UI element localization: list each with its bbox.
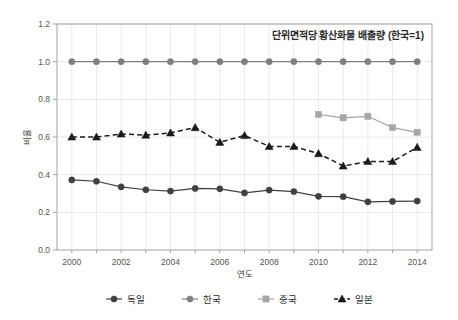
- data-point: [118, 184, 124, 190]
- data-point: [69, 59, 75, 65]
- y-tick-label: 1.2: [38, 19, 50, 29]
- data-point: [93, 178, 99, 184]
- data-point: [167, 188, 173, 194]
- legend-item-한국[interactable]: 한국: [182, 294, 221, 305]
- legend-label: 독일: [127, 294, 145, 305]
- data-point: [93, 59, 99, 65]
- data-point: [340, 194, 346, 200]
- x-axis-title: 연도: [237, 269, 253, 279]
- sulfur-oxide-emission-line-chart: 0.00.20.40.60.81.01.2 200020022004200620…: [0, 0, 458, 320]
- chart-container: 0.00.20.40.60.81.01.2 200020022004200620…: [0, 0, 458, 320]
- data-point: [217, 186, 223, 192]
- data-point: [266, 187, 272, 193]
- data-point: [365, 59, 371, 65]
- y-tick-label: 0.6: [38, 132, 50, 142]
- x-tick-label: 2000: [62, 257, 81, 267]
- data-point: [191, 124, 199, 131]
- data-point: [389, 124, 395, 130]
- legend-marker: [263, 296, 269, 302]
- legend-marker: [111, 296, 117, 302]
- data-point: [414, 198, 420, 204]
- y-tick-label: 0.0: [38, 245, 50, 255]
- data-point: [315, 150, 323, 157]
- series-한국: [69, 59, 421, 65]
- x-tick-label: 2010: [309, 257, 328, 267]
- data-point: [241, 59, 247, 65]
- y-tick-label: 0.2: [38, 207, 50, 217]
- x-tick-label: 2002: [112, 257, 131, 267]
- data-point: [118, 59, 124, 65]
- data-point: [192, 59, 198, 65]
- chart-legend: 독일한국중국일본: [106, 294, 373, 305]
- data-point: [266, 59, 272, 65]
- data-point: [241, 131, 249, 138]
- data-point: [143, 59, 149, 65]
- data-point: [364, 157, 372, 164]
- data-point: [389, 198, 395, 204]
- legend-item-중국[interactable]: 중국: [258, 294, 297, 305]
- data-point: [143, 187, 149, 193]
- y-axis-ticks: 0.00.20.40.60.81.01.2: [38, 19, 57, 255]
- legend-label: 중국: [279, 294, 297, 305]
- x-axis-ticks: 20002002200420062008201020122014: [62, 250, 427, 267]
- y-tick-label: 0.8: [38, 94, 50, 104]
- legend-label: 한국: [203, 294, 221, 305]
- data-point: [315, 59, 321, 65]
- y-tick-label: 0.4: [38, 170, 50, 180]
- x-tick-label: 2008: [260, 257, 279, 267]
- data-point: [365, 199, 371, 205]
- data-point: [414, 129, 420, 135]
- data-point: [414, 59, 420, 65]
- x-tick-label: 2012: [358, 257, 377, 267]
- data-point: [389, 59, 395, 65]
- x-tick-label: 2004: [161, 257, 180, 267]
- data-point: [290, 142, 298, 149]
- legend-marker: [338, 295, 346, 302]
- data-point: [340, 59, 346, 65]
- legend-item-일본[interactable]: 일본: [334, 294, 373, 305]
- data-point: [241, 190, 247, 196]
- y-tick-label: 1.0: [38, 57, 50, 67]
- legend-label: 일본: [355, 294, 373, 305]
- data-point: [217, 59, 223, 65]
- chart-title: 단위면적당 황산화물 배출량 (한국=1): [272, 29, 424, 41]
- data-point: [291, 189, 297, 195]
- data-point: [291, 59, 297, 65]
- legend-item-독일[interactable]: 독일: [106, 294, 145, 305]
- data-point: [413, 143, 421, 150]
- x-tick-label: 2006: [210, 257, 229, 267]
- data-point: [167, 59, 173, 65]
- data-point: [315, 193, 321, 199]
- data-point: [339, 162, 347, 169]
- y-axis-title: 비율: [22, 129, 32, 145]
- data-point: [340, 115, 346, 121]
- data-point: [216, 138, 224, 145]
- data-point: [365, 113, 371, 119]
- data-point: [192, 185, 198, 191]
- x-tick-label: 2014: [408, 257, 427, 267]
- data-point: [69, 177, 75, 183]
- legend-marker: [187, 296, 193, 302]
- data-point: [315, 111, 321, 117]
